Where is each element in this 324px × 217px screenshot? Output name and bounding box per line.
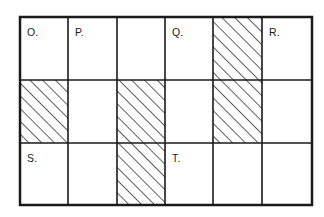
cell-label-o: O. xyxy=(27,27,39,38)
cell-label-t: T. xyxy=(172,153,181,164)
hatched-cell xyxy=(213,17,262,80)
cell-label-s: S. xyxy=(27,153,37,164)
cell-label-p: P. xyxy=(75,27,84,38)
hatched-cell xyxy=(117,143,165,205)
hatched-cell xyxy=(20,80,68,143)
cell-label-q: Q. xyxy=(172,27,184,38)
hatched-cell xyxy=(117,80,165,143)
grid-diagram: O.P.Q.R.S.T. xyxy=(0,0,324,217)
cell-label-r: R. xyxy=(269,27,280,38)
hatched-cell xyxy=(213,80,262,143)
